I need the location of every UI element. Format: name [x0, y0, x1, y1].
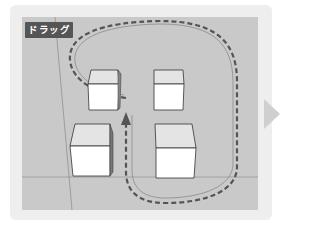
- viewport-scene: [22, 17, 258, 210]
- next-step-arrow-icon: [263, 97, 281, 131]
- 3d-viewport[interactable]: [22, 17, 258, 210]
- cube-bottom-right[interactable]: [155, 124, 196, 178]
- drag-step-label: ドラッグ: [25, 22, 73, 38]
- cube-bottom-left[interactable]: [70, 124, 113, 176]
- axis-line: [55, 17, 72, 210]
- drag-arrowhead-icon: [121, 112, 131, 125]
- cube-top-left[interactable]: [88, 70, 121, 110]
- cube-top-right[interactable]: [154, 70, 184, 110]
